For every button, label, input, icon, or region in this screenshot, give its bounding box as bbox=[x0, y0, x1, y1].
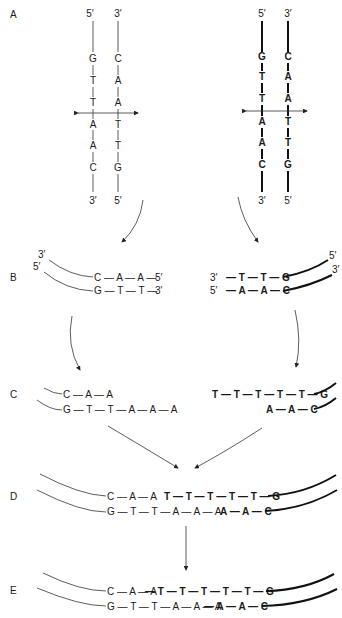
svg-text:5′: 5′ bbox=[33, 261, 41, 272]
panel-label-c: C bbox=[10, 389, 17, 400]
svg-text:A: A bbox=[284, 93, 291, 104]
svg-text:3′: 3′ bbox=[210, 272, 218, 283]
svg-text:T: T bbox=[259, 93, 265, 104]
svg-text:C — A — A —: C — A — A — bbox=[94, 272, 156, 283]
panel-b-left-fragment: 3′ 5′ C — A — A — 5′ G — T — T — 3′ bbox=[33, 249, 163, 296]
svg-text:G: G bbox=[114, 162, 122, 173]
svg-text:A: A bbox=[258, 116, 265, 127]
panel-label-e: E bbox=[10, 585, 17, 596]
svg-text:T: T bbox=[285, 116, 291, 127]
svg-text:3′: 3′ bbox=[89, 195, 97, 206]
svg-text:A: A bbox=[115, 97, 122, 108]
svg-text:T: T bbox=[90, 75, 96, 86]
flow-arrow-icon bbox=[108, 426, 178, 468]
panel-label-d: D bbox=[10, 491, 17, 502]
svg-text:T: T bbox=[115, 119, 121, 130]
svg-text:5′: 5′ bbox=[329, 250, 337, 261]
panel-d-annealed: C — A — A T — T — T — T — T — G G — T — … bbox=[37, 474, 337, 517]
svg-text:3′: 3′ bbox=[155, 285, 163, 296]
svg-text:— A — A — C: — A — A — C bbox=[204, 601, 268, 612]
svg-text:3′: 3′ bbox=[258, 195, 266, 206]
svg-text:3′: 3′ bbox=[38, 249, 46, 260]
svg-text:G: G bbox=[258, 51, 266, 62]
svg-text:C: C bbox=[89, 162, 96, 173]
svg-text:G: G bbox=[89, 53, 97, 64]
flow-arrow-icon bbox=[295, 310, 299, 367]
svg-text:G — T — T — A — A — A: G — T — T — A — A — A bbox=[63, 404, 178, 415]
svg-text:— T — T — G: — T — T — G bbox=[226, 272, 290, 283]
panel-label-b: B bbox=[10, 272, 17, 283]
svg-text:5′: 5′ bbox=[86, 8, 94, 19]
svg-text:5′: 5′ bbox=[210, 285, 218, 296]
svg-text:C — A — A: C — A — A bbox=[107, 491, 157, 502]
svg-text:T — T — T — T — T — G: T — T — T — T — T — G bbox=[164, 491, 280, 502]
panel-e-ligated: C — A — A — T — T — T — T — T — G G — T … bbox=[37, 573, 337, 612]
svg-text:5′: 5′ bbox=[155, 272, 163, 283]
svg-text:5′: 5′ bbox=[258, 8, 266, 19]
panel-c-right: T — T — T — T — T — G A — A — C bbox=[212, 383, 336, 415]
svg-text:G: G bbox=[284, 159, 292, 170]
svg-text:3′: 3′ bbox=[114, 8, 122, 19]
svg-text:A: A bbox=[90, 119, 97, 130]
svg-text:T: T bbox=[115, 140, 121, 151]
svg-text:T — T — T — T — T — G: T — T — T — T — T — G bbox=[212, 389, 328, 400]
svg-text:T: T bbox=[90, 97, 96, 108]
svg-text:G — T — T —: G — T — T — bbox=[94, 285, 157, 296]
svg-text:3′: 3′ bbox=[332, 264, 340, 275]
svg-text:5′: 5′ bbox=[284, 195, 292, 206]
svg-text:A: A bbox=[90, 140, 97, 151]
svg-text:G — T — T — A — A — A: G — T — T — A — A — A bbox=[107, 506, 222, 517]
flow-arrow-icon bbox=[122, 200, 143, 242]
svg-text:C: C bbox=[258, 159, 265, 170]
svg-text:C — A — A: C — A — A bbox=[63, 389, 113, 400]
svg-text:A — A — C: A — A — C bbox=[266, 404, 318, 415]
flow-arrow-icon bbox=[70, 316, 80, 370]
svg-text:3′: 3′ bbox=[284, 8, 292, 19]
panel-c-left: C — A — A G — T — T — A — A — A bbox=[37, 388, 178, 415]
flow-arrow-icon bbox=[238, 197, 258, 242]
svg-text:A: A bbox=[258, 137, 265, 148]
panel-label-a: A bbox=[10, 9, 17, 20]
dna-ligation-diagram: A 5′ 3′ G T T A A C C A A T T G 3′ 5′ bbox=[0, 0, 342, 618]
svg-text:T: T bbox=[259, 71, 265, 82]
panel-a-right-duplex: 5′ 3′ G T T A A C C A A T T G 3′ 5′ bbox=[246, 8, 307, 206]
svg-text:A: A bbox=[284, 71, 291, 82]
svg-text:A — A — C: A — A — C bbox=[220, 506, 272, 517]
flow-arrow-icon bbox=[195, 428, 262, 468]
svg-text:— A — A — C: — A — A — C bbox=[226, 285, 290, 296]
svg-text:C: C bbox=[114, 53, 121, 64]
svg-text:T: T bbox=[285, 137, 291, 148]
panel-a-left-duplex: 5′ 3′ G T T A A C C A A T T G 3′ 5′ bbox=[78, 8, 138, 206]
panel-b-right-fragment: 3′ 5′ — T — T — G — A — A — C 5′ 3′ bbox=[210, 250, 340, 296]
svg-text:A: A bbox=[115, 75, 122, 86]
svg-text:C: C bbox=[284, 51, 291, 62]
svg-text:5′: 5′ bbox=[114, 195, 122, 206]
svg-text:— T — T — T — T — T — G: — T — T — T — T — T — G bbox=[145, 586, 274, 597]
